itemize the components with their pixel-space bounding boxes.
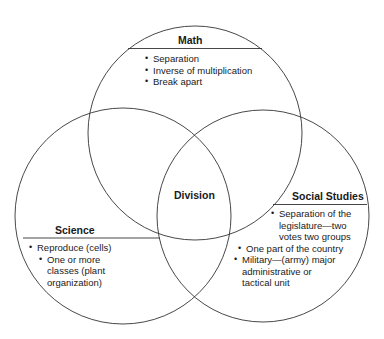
math-title: Math (178, 34, 203, 46)
list-item: Reproduce (cells) (28, 242, 148, 254)
list-item: Inverse of multiplication (144, 65, 252, 77)
list-item: One part of the country (237, 243, 363, 255)
center-label-division: Division (174, 189, 215, 201)
list-item: Military—(army) major administrative or … (233, 254, 337, 289)
list-item: Break apart (144, 76, 252, 88)
math-items: Separation Inverse of multiplication Bre… (144, 53, 252, 88)
science-circle (15, 108, 231, 324)
social-studies-title: Social Studies (292, 190, 364, 202)
science-title: Science (55, 224, 95, 236)
list-item: One or more classes (plant organization) (38, 254, 127, 289)
science-items: Reproduce (cells) One or more classes (p… (28, 242, 148, 288)
social-studies-items: Separation of the legislature—two votes … (233, 208, 363, 289)
list-item: Separation (144, 53, 252, 65)
list-item: Separation of the legislature—two votes … (270, 208, 364, 243)
